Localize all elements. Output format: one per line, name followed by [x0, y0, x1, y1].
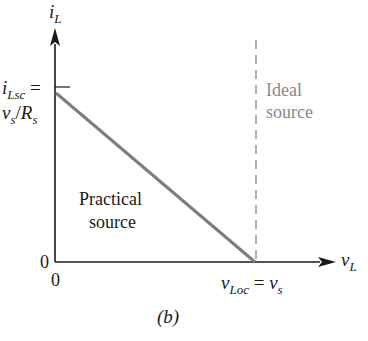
practical-source-label-line2: source	[89, 212, 136, 232]
practical-source-line	[56, 93, 255, 262]
y-axis	[50, 28, 60, 262]
y-axis-label: iL	[49, 1, 62, 26]
ideal-source-label-line1: Ideal	[266, 80, 302, 100]
iv-characteristic-diagram: iL vL iLsc = vs/Rs 0 0 vLoc = vs Ideal s…	[0, 0, 368, 341]
y-origin-label: 0	[40, 252, 49, 272]
x-origin-label: 0	[51, 270, 60, 290]
x-axis-label: vL	[341, 249, 357, 274]
y-intercept-label-line1: iLsc =	[2, 77, 41, 102]
x-intercept-label: vLoc = vs	[221, 272, 283, 297]
x-axis-arrow-icon	[318, 257, 336, 267]
ideal-source-label-line2: source	[266, 102, 313, 122]
y-axis-arrow-icon	[50, 28, 60, 46]
y-intercept-label-line2: vs/Rs	[2, 102, 37, 127]
practical-source-label-line1: Practical	[79, 189, 142, 209]
x-axis	[55, 257, 336, 267]
figure-caption: (b)	[157, 306, 179, 328]
